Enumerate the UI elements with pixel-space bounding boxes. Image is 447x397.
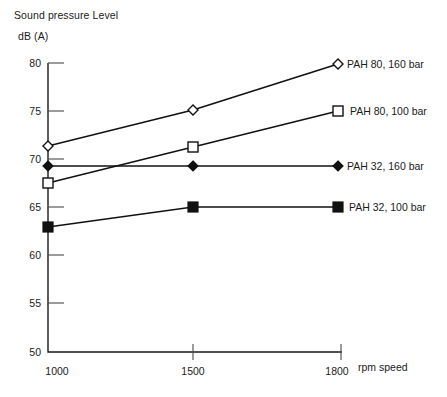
data-point-marker-open-square (188, 142, 198, 152)
data-point-marker-filled-square (43, 222, 53, 232)
y-tick-label-75: 75 (29, 105, 41, 117)
legend-label-pah80-160bar: PAH 80, 160 bar (347, 58, 424, 70)
data-point-marker-open-diamond (188, 105, 198, 115)
data-point-marker-open-square (333, 106, 343, 116)
chart-canvas: 80 75 70 65 60 55 50 1000 1500 1800 rpm … (0, 0, 447, 397)
data-point-marker-open-square (43, 178, 53, 188)
x-tick-label-1000: 1000 (45, 365, 69, 377)
data-point-marker-filled-diamond (43, 161, 53, 171)
data-point-marker-filled-diamond (188, 161, 198, 171)
x-tick-label-1800: 1800 (325, 365, 349, 377)
data-point-marker-filled-diamond (333, 161, 343, 171)
data-point-marker-filled-square (188, 202, 198, 212)
legend-label-pah80-100bar: PAH 80, 100 bar (350, 105, 427, 117)
data-point-marker-open-diamond (43, 141, 53, 151)
data-point-marker-open-diamond (333, 59, 343, 69)
sound-pressure-level-chart: Sound pressure Level dB (A) 80 75 70 65 … (0, 0, 447, 397)
legend-label-pah32-100bar: PAH 32, 100 bar (349, 201, 426, 213)
y-tick-label-50: 50 (29, 346, 41, 358)
x-tick-label-1500: 1500 (181, 365, 205, 377)
y-tick-label-55: 55 (29, 297, 41, 309)
data-point-marker-filled-square (333, 202, 343, 212)
legend-label-pah32-160bar: PAH 32, 160 bar (347, 160, 424, 172)
y-tick-label-80: 80 (29, 57, 41, 69)
y-tick-label-70: 70 (29, 153, 41, 165)
y-tick-label-65: 65 (29, 201, 41, 213)
y-tick-label-60: 60 (29, 249, 41, 261)
x-axis-title: rpm speed (358, 361, 408, 373)
